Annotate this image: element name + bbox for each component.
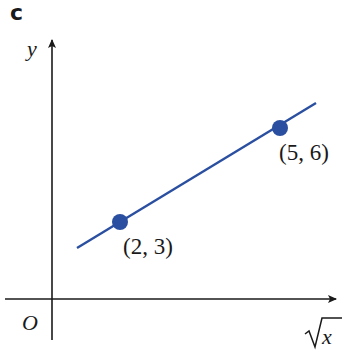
x-axis-label: x [305,318,342,349]
panel-label: c [10,0,23,25]
x-axis-variable: x [321,324,332,349]
point-label-1: (2, 3) [123,234,173,259]
y-axis-label: y [25,36,37,61]
graph: y O x (2, 3) (5, 6) [0,0,348,364]
data-point-2 [272,120,288,136]
origin-label: O [22,310,38,335]
point-label-2: (5, 6) [279,140,329,165]
figure: c y O x (2, 3) (5, 6) [0,0,348,364]
data-point-1 [112,214,128,230]
